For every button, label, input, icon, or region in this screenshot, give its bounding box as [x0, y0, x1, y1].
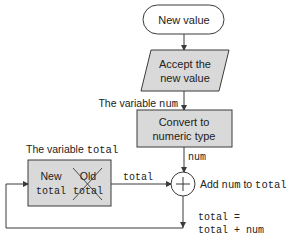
input-node: Accept the new value — [141, 50, 229, 91]
edge-total-label: total — [123, 172, 153, 183]
edge-num-label: num — [188, 152, 206, 163]
old-total-label: Old — [80, 170, 97, 182]
formula-line1: total = — [198, 212, 240, 223]
add-label: Add num to total — [200, 178, 287, 191]
new-total-var: total — [36, 186, 66, 197]
new-total-label: New — [40, 170, 61, 182]
start-node: New value — [143, 5, 224, 34]
sum-node — [171, 172, 195, 196]
convert-label-line1: Convert to — [159, 116, 210, 128]
input-label-line1: Accept the — [159, 58, 211, 70]
total-box: New total Old total — [28, 160, 111, 206]
flowchart-canvas: New value Accept the new value The varia… — [0, 0, 293, 240]
formula-line2: total + num — [198, 225, 264, 236]
convert-label-line2: numeric type — [153, 130, 216, 142]
input-label-line2: new value — [160, 72, 210, 84]
variable-total-label: The variable total — [26, 143, 118, 156]
feedback-down-arrow-icon — [180, 222, 186, 228]
variable-num-label: The variable num — [98, 97, 178, 110]
convert-node: Convert to numeric type — [137, 110, 232, 147]
start-label: New value — [158, 14, 209, 26]
